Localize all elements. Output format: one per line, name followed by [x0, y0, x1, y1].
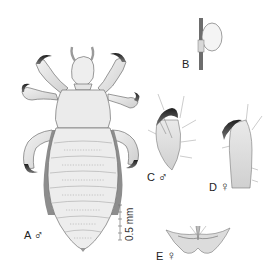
- panel-c-label: C ♂: [147, 170, 168, 183]
- panel-e-label: E ♀: [156, 249, 176, 262]
- panel-b-label: B: [182, 59, 189, 70]
- female-symbol-icon: ♀: [166, 248, 176, 263]
- panel-c-letter: C: [147, 171, 155, 183]
- panel-b-letter: B: [182, 58, 189, 70]
- panel-a-letter: A: [24, 229, 31, 241]
- panel-a-louse-body: [22, 47, 140, 252]
- panel-d-female-claw: [222, 104, 262, 188]
- female-symbol-icon: ♀: [220, 179, 230, 194]
- panel-e-letter: E: [156, 250, 163, 262]
- panel-d-label: D ♀: [209, 180, 230, 193]
- panel-a-label: A ♂: [24, 228, 44, 241]
- male-symbol-icon: ♂: [34, 227, 44, 242]
- panel-c-male-claw: [148, 94, 196, 170]
- male-symbol-icon: ♂: [158, 169, 168, 184]
- panel-b-nit: [198, 18, 222, 70]
- panel-d-letter: D: [209, 181, 217, 193]
- scale-bar-label: 0.5 mm: [124, 208, 135, 241]
